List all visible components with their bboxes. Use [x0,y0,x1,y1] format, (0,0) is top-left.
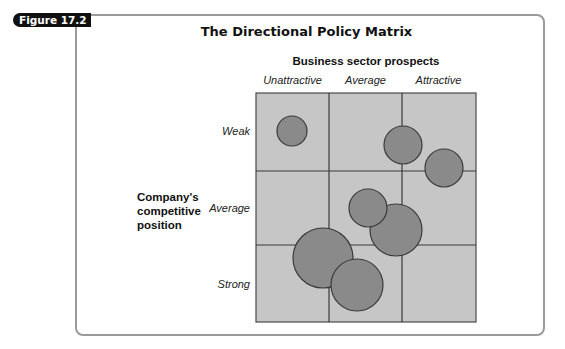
business-unit-bubble [349,189,387,227]
business-unit-bubble [331,259,383,311]
business-unit-bubble [425,149,463,187]
business-unit-bubble [277,116,307,146]
policy-matrix-grid [0,0,565,349]
business-unit-bubble [384,126,422,164]
